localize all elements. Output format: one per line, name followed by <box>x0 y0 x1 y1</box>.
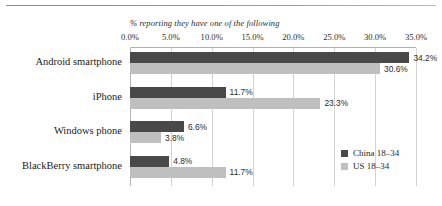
bar-value-label: 30.6% <box>384 64 408 74</box>
category-label: BlackBerry smartphone <box>22 160 122 172</box>
x-tick-label: 30.0% <box>364 32 386 43</box>
x-tick-label: 5.0% <box>162 32 180 43</box>
bar-china[interactable] <box>130 52 409 63</box>
bar-china[interactable] <box>130 156 169 167</box>
bar-us[interactable] <box>130 98 320 109</box>
chart-title: % reporting they have one of the followi… <box>130 18 420 28</box>
category-label: Android smartphone <box>35 56 122 68</box>
bar-value-label: 11.7% <box>230 167 253 177</box>
x-tick-label: 25.0% <box>323 32 345 43</box>
x-tick-label: 0.0% <box>121 32 139 43</box>
legend-label-us: US 18–34 <box>353 161 389 172</box>
x-tick-label: 10.0% <box>201 32 223 43</box>
chart-figure: % reporting they have one of the followi… <box>0 0 442 206</box>
bar-value-label: 34.2% <box>413 53 437 63</box>
bar-china[interactable] <box>130 121 184 132</box>
top-divider <box>6 5 436 6</box>
bar-value-label: 6.6% <box>188 122 207 132</box>
bar-value-label: 4.8% <box>173 156 192 166</box>
x-axis-ticks: 0.0%5.0%10.0%15.0%20.0%25.0%30.0%35.0% <box>130 32 416 44</box>
category-label: iPhone <box>93 91 122 103</box>
y-axis-category-labels: Android smartphoneiPhoneWindows phoneBla… <box>0 47 126 185</box>
x-tick-label: 15.0% <box>241 32 263 43</box>
category-label: Windows phone <box>54 125 122 137</box>
x-tick-label: 20.0% <box>282 32 304 43</box>
bar-value-label: 11.7% <box>230 87 253 97</box>
legend-item-china[interactable]: China 18–34 <box>341 148 437 159</box>
legend-item-us[interactable]: US 18–34 <box>341 161 437 172</box>
legend-swatch-icon-china <box>341 150 348 157</box>
bar-value-label: 3.8% <box>165 133 184 143</box>
bar-china[interactable] <box>130 87 226 98</box>
legend-label-china: China 18–34 <box>353 148 399 159</box>
bar-value-label: 23.3% <box>324 98 348 108</box>
legend-swatch-icon-us <box>341 163 348 170</box>
bar-us[interactable] <box>130 132 161 143</box>
bar-us[interactable] <box>130 63 380 74</box>
x-tick-label: 35.0% <box>405 32 427 43</box>
chart-legend: China 18–34 US 18–34 <box>341 148 437 174</box>
bar-us[interactable] <box>130 167 226 178</box>
